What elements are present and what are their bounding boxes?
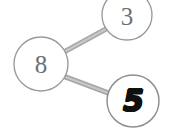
edge-whole-to-top-highlight: [64, 29, 106, 52]
node-circle-part-top[interactable]: [102, 0, 152, 40]
node-circle-whole[interactable]: [14, 37, 68, 91]
number-bond-svg: [0, 0, 170, 132]
edge-whole-to-bottom-highlight: [63, 76, 111, 94]
node-circle-part-bottom[interactable]: [107, 75, 159, 127]
diagram-canvas: 8 3 5: [0, 0, 170, 132]
